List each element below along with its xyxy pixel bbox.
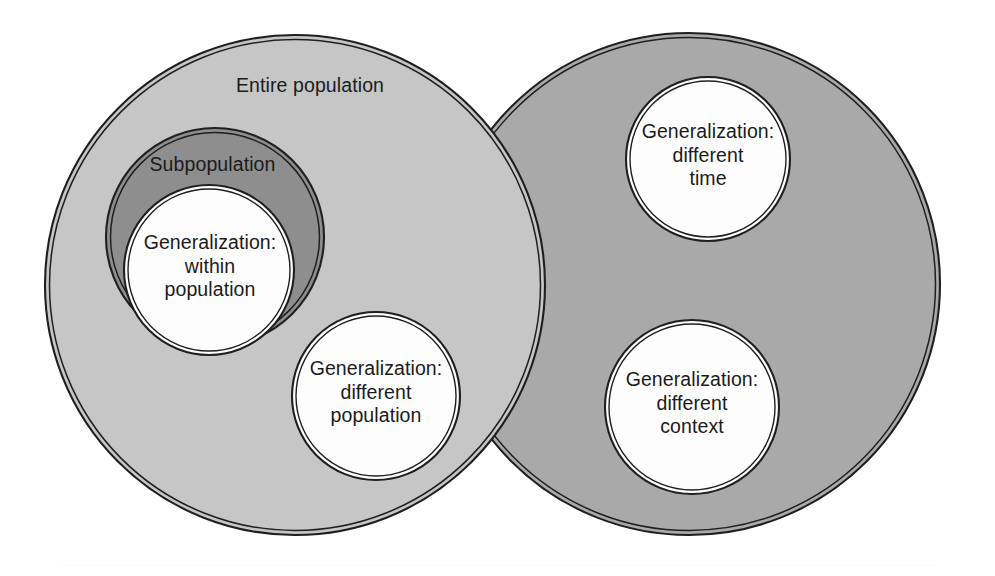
generalization-venn-diagram: Entire population Subpopulation Generali… (0, 0, 995, 576)
page-divider (60, 565, 938, 566)
region-generalization-different-context (605, 320, 779, 494)
generalization-different-population-circle (292, 312, 460, 480)
region-generalization-different-time (626, 77, 790, 241)
generalization-different-time-circle (626, 77, 790, 241)
generalization-within-population-circle (124, 185, 294, 355)
region-generalization-within-population (124, 185, 294, 355)
venn-diagram-canvas (0, 0, 995, 576)
generalization-different-context-circle (605, 320, 779, 494)
region-generalization-different-population (292, 312, 460, 480)
